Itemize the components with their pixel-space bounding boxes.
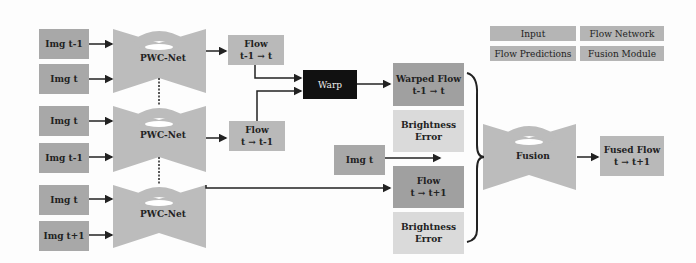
warped-flow: Warped Flowt-1 → t — [393, 63, 464, 106]
diagram-canvas: Input Flow Network Flow Predictions Fusi… — [0, 0, 696, 263]
legend-flow-predictions-label: Flow Predictions — [495, 49, 572, 59]
flow-t-1-to-t: Flowt-1 → t — [228, 35, 284, 65]
legend-flow-network: Flow Network — [580, 26, 664, 41]
flow-sub: t-1 → t — [240, 50, 272, 62]
flow-t-to-t-1: Flowt → t-1 — [229, 121, 285, 151]
flow-title: Flow — [244, 38, 268, 50]
input-label: Img t-1 — [45, 152, 82, 164]
legend-fusion-module-label: Fusion Module — [588, 49, 656, 59]
input-img-t-c: Img t — [39, 185, 89, 215]
fusion-label: Fusion — [516, 151, 550, 161]
input-label: Img t+1 — [43, 230, 84, 242]
flow-title: Flow — [245, 124, 269, 136]
legend-input: Input — [490, 26, 576, 41]
legend-flow-network-label: Flow Network — [590, 29, 655, 39]
legend-flow-predictions: Flow Predictions — [490, 46, 576, 61]
input-img-t-1-b: Img t-1 — [39, 143, 89, 173]
input-img-t-fusion: Img t — [334, 145, 385, 175]
flow-sub: t → t+1 — [411, 187, 447, 199]
bright-title: Brightness — [401, 221, 456, 233]
flow-sub: t-1 → t — [412, 85, 444, 97]
input-label: Img t-1 — [45, 38, 82, 50]
legend-input-label: Input — [521, 29, 546, 39]
input-img-t-1-a: Img t-1 — [39, 29, 89, 59]
flow-t-to-t-plus-1: Flowt → t+1 — [393, 166, 464, 208]
output-sub: t → t+1 — [614, 156, 650, 168]
input-label: Img t — [346, 154, 373, 166]
pwc-net-2-label: PWC-Net — [140, 130, 186, 140]
fused-flow-output: Fused Flowt → t+1 — [600, 136, 664, 176]
bright-sub: Error — [415, 131, 442, 143]
input-img-t-a: Img t — [39, 64, 89, 94]
brightness-error-2: BrightnessError — [393, 212, 464, 254]
bright-sub: Error — [415, 233, 442, 245]
input-img-t-b: Img t — [39, 106, 89, 136]
input-label: Img t — [50, 115, 77, 127]
brightness-error-1: BrightnessError — [393, 110, 464, 152]
input-label: Img t — [50, 194, 77, 206]
warp-label: Warp — [318, 79, 342, 91]
input-label: Img t — [50, 73, 77, 85]
flow-title: Flow — [417, 175, 441, 187]
flow-title: Warped Flow — [396, 73, 461, 85]
input-img-t-plus-1: Img t+1 — [39, 221, 89, 251]
legend-fusion-module: Fusion Module — [580, 46, 664, 61]
pwc-net-1-label: PWC-Net — [140, 53, 186, 63]
bright-title: Brightness — [401, 119, 456, 131]
warp-block: Warp — [303, 70, 357, 99]
pwc-net-3-label: PWC-Net — [140, 209, 186, 219]
output-title: Fused Flow — [604, 144, 661, 156]
flow-sub: t → t-1 — [241, 136, 273, 148]
